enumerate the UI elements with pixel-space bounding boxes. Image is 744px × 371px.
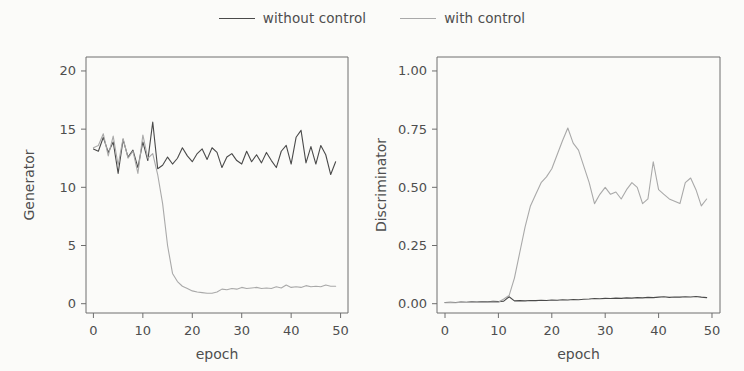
x-tick-label: 50 xyxy=(332,323,349,338)
x-tick-label: 40 xyxy=(283,323,300,338)
series-line-with-control xyxy=(445,128,707,303)
y-axis-title: Discriminator xyxy=(373,138,389,232)
series-line-without-control xyxy=(93,122,335,174)
generator-plot: 0102030405005101520epochGenerator xyxy=(0,0,372,371)
axes-frame xyxy=(86,57,348,313)
x-tick-label: 0 xyxy=(441,323,449,338)
y-tick-label: 0.75 xyxy=(398,122,427,137)
x-tick-label: 10 xyxy=(490,323,507,338)
discriminator-plot: 010203040500.000.250.500.751.00epochDisc… xyxy=(372,0,744,371)
x-tick-label: 20 xyxy=(544,323,561,338)
chart-panel-generator: 0102030405005101520epochGenerator xyxy=(0,0,372,371)
figure-root: without control with control 01020304050… xyxy=(0,0,744,371)
axes-frame xyxy=(437,57,720,313)
y-axis-title: Generator xyxy=(21,149,37,220)
y-tick-label: 5 xyxy=(68,238,76,253)
x-tick-label: 30 xyxy=(597,323,614,338)
y-tick-label: 0 xyxy=(68,296,76,311)
chart-panel-discriminator: 010203040500.000.250.500.751.00epochDisc… xyxy=(372,0,744,371)
y-tick-label: 1.00 xyxy=(398,63,427,78)
y-tick-label: 0.50 xyxy=(398,180,427,195)
x-tick-label: 30 xyxy=(233,323,250,338)
x-axis-title: epoch xyxy=(557,346,600,362)
y-tick-label: 0.00 xyxy=(398,296,427,311)
x-axis-title: epoch xyxy=(196,346,239,362)
x-tick-label: 0 xyxy=(89,323,97,338)
series-line-with-control xyxy=(93,134,335,293)
y-tick-label: 0.25 xyxy=(398,238,427,253)
x-tick-label: 10 xyxy=(135,323,152,338)
y-tick-label: 20 xyxy=(59,63,76,78)
x-tick-label: 50 xyxy=(704,323,721,338)
x-tick-label: 40 xyxy=(650,323,667,338)
y-tick-label: 10 xyxy=(59,180,76,195)
y-tick-label: 15 xyxy=(59,122,76,137)
x-tick-label: 20 xyxy=(184,323,201,338)
